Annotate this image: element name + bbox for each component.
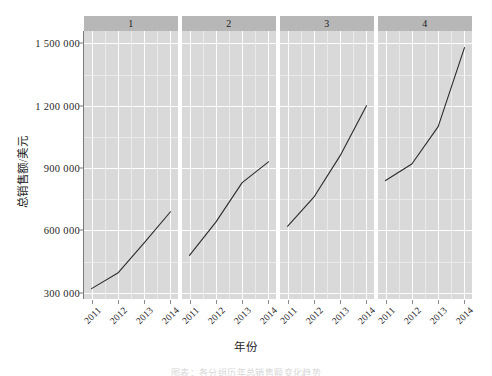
x-tick-mark: [268, 300, 269, 304]
facet-panel-grid: 1234: [84, 16, 472, 299]
facet-panel: 1: [84, 16, 178, 299]
y-tick-label: 1 500 000: [6, 38, 80, 49]
facet-strip-label: 4: [378, 16, 472, 31]
chart-figure: 总销售额/美元 300 000600 000900 0001 200 0001 …: [0, 0, 492, 376]
panel-plot-area: [84, 31, 178, 299]
x-tick-mark: [464, 300, 465, 304]
figure-caption: 图表：各分组历年总销售额变化趋势: [0, 366, 492, 376]
panel-plot-area: [378, 31, 472, 299]
y-tick-label: 900 000: [6, 163, 80, 174]
x-tick-mark: [144, 300, 145, 304]
x-tick-mark: [190, 300, 191, 304]
y-tick-mark: [79, 105, 83, 106]
x-tick-mark: [438, 300, 439, 304]
x-tick-mark: [118, 300, 119, 304]
x-tick-mark: [412, 300, 413, 304]
y-axis-tick-labels: 300 000600 000900 0001 200 0001 500 000: [0, 0, 80, 376]
series-line: [84, 31, 178, 299]
facet-panel: 4: [378, 16, 472, 299]
series-line: [280, 31, 374, 299]
x-tick-mark: [92, 300, 93, 304]
panel-plot-area: [182, 31, 276, 299]
facet-panel: 3: [280, 16, 374, 299]
y-tick-mark: [79, 168, 83, 169]
panel-plot-area: [280, 31, 374, 299]
x-tick-mark: [366, 300, 367, 304]
y-tick-label: 1 200 000: [6, 100, 80, 111]
facet-strip-label: 1: [84, 16, 178, 31]
y-tick-mark: [79, 230, 83, 231]
series-line: [378, 31, 472, 299]
facet-strip-label: 2: [182, 16, 276, 31]
series-line: [182, 31, 276, 299]
y-tick-mark: [79, 43, 83, 44]
x-tick-mark: [288, 300, 289, 304]
facet-strip-label: 3: [280, 16, 374, 31]
x-tick-mark: [340, 300, 341, 304]
x-tick-mark: [216, 300, 217, 304]
facet-panel: 2: [182, 16, 276, 299]
x-tick-mark: [170, 300, 171, 304]
x-tick-mark: [242, 300, 243, 304]
y-tick-mark: [79, 292, 83, 293]
x-tick-mark: [386, 300, 387, 304]
y-tick-label: 300 000: [6, 287, 80, 298]
y-tick-label: 600 000: [6, 225, 80, 236]
x-tick-mark: [314, 300, 315, 304]
